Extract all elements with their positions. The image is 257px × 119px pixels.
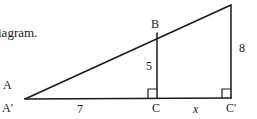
geometry-diagram-screenshot: iagram. A A' B C C' 5 7 8 x (0, 0, 257, 119)
vertex-label-a: A (3, 79, 12, 91)
vertex-label-c: C (152, 102, 160, 114)
measure-label-ac: 7 (77, 103, 83, 115)
vertex-label-a-prime: A' (2, 102, 13, 114)
vertex-label-b: B (151, 18, 159, 30)
vertex-label-c-prime: C' (226, 102, 236, 114)
right-angle-marker-c-prime (222, 89, 231, 98)
right-angle-marker-c (148, 89, 157, 98)
hypotenuse-line (25, 5, 231, 99)
measure-label-bc: 5 (146, 60, 152, 72)
base-line (25, 98, 231, 99)
measure-label-right-vertical: 8 (239, 42, 245, 54)
measure-label-cc-prime: x (193, 103, 198, 115)
triangle-diagram-graphic (0, 0, 257, 119)
